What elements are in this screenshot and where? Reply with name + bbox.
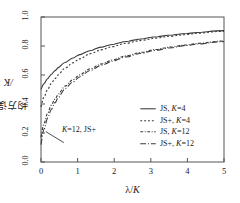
chart-legend: JS, K=4 JS+, K=4 JS, K=12 JS+, K=12	[140, 103, 194, 149]
plot-frame	[41, 17, 224, 162]
legend-item: JS+, K=12	[140, 138, 194, 150]
x-tick-label: 0	[34, 166, 48, 176]
chart-figure: 均方误差/K λ/K 0.00.20.40.60.81.0 012345 JS,…	[0, 0, 240, 203]
legend-label: JS+, K=4	[157, 115, 190, 127]
y-tick-label: 0.8	[13, 40, 37, 49]
legend-item: JS, K=4	[140, 103, 194, 115]
x-axis-label: λ/K	[41, 184, 224, 195]
legend-label: JS, K=4	[157, 103, 185, 115]
y-tick-label: 0.0	[13, 156, 37, 165]
x-tick-label: 1	[71, 166, 85, 176]
legend-key-dashdot-long	[140, 138, 157, 150]
x-tick-label: 4	[180, 166, 194, 176]
plot-annotation-text: =12, JS+	[67, 125, 96, 134]
legend-item: JS, K=12	[140, 126, 194, 138]
legend-label: JS, K=12	[157, 126, 189, 138]
x-tick-label: 2	[107, 166, 121, 176]
x-tick-label: 5	[217, 166, 231, 176]
legend-label: JS+, K=12	[157, 138, 194, 150]
y-tick-label: 0.4	[13, 98, 37, 107]
x-axis-label-k: K	[133, 184, 140, 195]
legend-key-solid	[140, 103, 157, 115]
y-tick-label: 1.0	[13, 11, 37, 20]
x-tick-label: 3	[144, 166, 158, 176]
y-tick-label: 0.6	[13, 69, 37, 78]
plot-annotation: K=12, JS+	[62, 125, 96, 134]
legend-item: JS+, K=4	[140, 115, 194, 127]
y-tick-label: 0.2	[13, 127, 37, 136]
legend-key-dotted	[140, 115, 157, 127]
legend-key-dashdot-short	[140, 126, 157, 138]
